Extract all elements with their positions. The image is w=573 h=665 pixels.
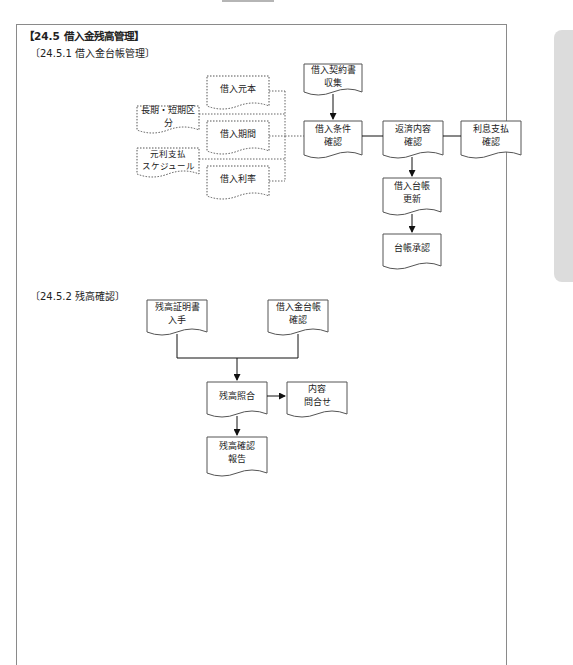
process-cert-obtain: 残高証明書 入手 (147, 300, 207, 328)
process-ledger-update: 借入台帳 更新 (383, 178, 441, 208)
input-doc-repay-schedule: 元利支払 スケジュール (137, 148, 199, 172)
process-terms-check: 借入条件 確認 (304, 121, 362, 151)
process-contract-collect: 借入契約書 収集 (304, 64, 362, 90)
process-inquiry: 内容 問合せ (287, 382, 347, 410)
input-doc-rate: 借入利率 (207, 166, 269, 193)
process-balance-report: 残高確認 報告 (207, 437, 267, 469)
process-ledger-approve: 台帳承認 (383, 234, 441, 262)
input-doc-term-class: 長期・短期区分 (137, 106, 199, 127)
process-balance-match: 残高照合 (207, 382, 267, 410)
input-doc-principal: 借入元本 (207, 76, 269, 103)
process-ledger-check: 借入金台帳 確認 (268, 300, 328, 328)
process-interest-check: 利息支払 確認 (461, 121, 521, 151)
input-doc-period: 借入期間 (207, 121, 269, 148)
process-repay-check: 返済内容 確認 (383, 121, 443, 151)
